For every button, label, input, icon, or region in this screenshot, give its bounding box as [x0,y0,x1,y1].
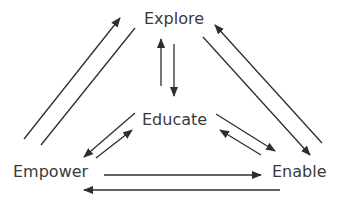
node-educate: Educate [142,112,207,128]
arrow-explore-to-empower [41,28,135,145]
node-empower: Empower [13,164,88,180]
four-e-cycle-diagram: Explore Educate Empower Enable [0,0,346,201]
arrow-enable-to-explore [215,25,322,143]
node-explore: Explore [144,11,204,27]
arrow-empower-to-educate [96,130,132,158]
arrow-educate-to-empower [84,113,135,157]
node-enable: Enable [272,164,327,180]
arrow-empower-to-explore [24,18,120,139]
arrow-explore-to-enable [203,37,310,155]
arrow-enable-to-educate [220,130,261,155]
